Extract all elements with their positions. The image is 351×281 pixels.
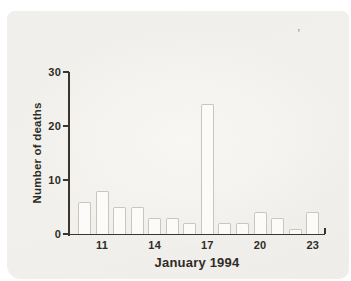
y-tick-30 bbox=[63, 71, 69, 73]
x-axis-end-tick bbox=[324, 228, 326, 234]
bar-day-15 bbox=[166, 218, 179, 234]
bar-day-11 bbox=[96, 191, 109, 234]
y-axis-title: Number of deaths bbox=[29, 72, 45, 234]
y-tick-10 bbox=[63, 179, 69, 181]
y-tick-0 bbox=[63, 233, 69, 235]
bar-chart: 01020301114172023 Number of deaths Janua… bbox=[7, 11, 351, 281]
bar-day-20 bbox=[254, 212, 267, 234]
bar-day-17 bbox=[201, 104, 214, 234]
x-tick-label-17: 17 bbox=[192, 239, 222, 252]
x-axis-line bbox=[68, 234, 325, 236]
bar-day-18 bbox=[218, 223, 231, 234]
bar-day-13 bbox=[131, 207, 144, 234]
x-tick-label-23: 23 bbox=[298, 239, 328, 252]
bar-day-16 bbox=[183, 223, 196, 234]
bar-day-14 bbox=[148, 218, 161, 234]
x-axis-title: January 1994 bbox=[97, 255, 297, 270]
scan-artifact-mark: ’ bbox=[296, 26, 300, 41]
scan-panel: 01020301114172023 Number of deaths Janua… bbox=[7, 11, 349, 279]
x-tick-label-14: 14 bbox=[140, 239, 170, 252]
y-tick-20 bbox=[63, 125, 69, 127]
y-axis-line bbox=[68, 72, 70, 236]
x-tick-label-11: 11 bbox=[87, 239, 117, 252]
bar-day-21 bbox=[271, 218, 284, 234]
bar-day-10 bbox=[78, 202, 91, 234]
bar-day-23 bbox=[306, 212, 319, 234]
x-tick-label-20: 20 bbox=[245, 239, 275, 252]
bar-day-12 bbox=[113, 207, 126, 234]
bar-day-19 bbox=[236, 223, 249, 234]
